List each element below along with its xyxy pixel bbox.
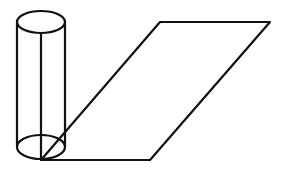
cylinder-top-ellipse	[17, 11, 65, 33]
cylinder-plane-diagram	[0, 0, 288, 177]
parallelogram-plane	[41, 22, 270, 160]
parallelogram	[41, 22, 270, 160]
cylinder	[17, 11, 65, 159]
